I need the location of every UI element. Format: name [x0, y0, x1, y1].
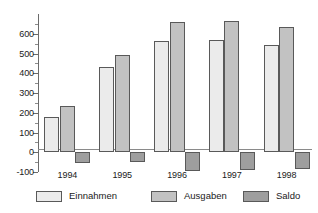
bar-saldo-1997	[240, 152, 255, 170]
bar-einnahmen-1994	[44, 117, 59, 153]
chart-legend: EinnahmenAusgabenSaldo	[0, 188, 318, 206]
bar-ausgaben-1998	[279, 27, 294, 152]
legend-swatch-einnahmen	[36, 191, 62, 202]
bar-saldo-1994	[75, 152, 90, 162]
x-tick-label: 1995	[91, 170, 153, 180]
y-tick-label: 500	[19, 50, 34, 59]
y-tick-label: 400	[19, 69, 34, 78]
y-tick-label: 0	[29, 148, 34, 157]
x-tick-label: 1998	[256, 170, 318, 180]
bar-saldo-1998	[295, 152, 310, 168]
legend-label-einnahmen: Einnahmen	[69, 191, 117, 201]
bar-group	[209, 14, 255, 172]
bar-einnahmen-1995	[99, 67, 114, 152]
x-tick-label: 1996	[146, 170, 208, 180]
legend-label-ausgaben: Ausgaben	[184, 191, 227, 201]
bar-group	[99, 14, 145, 172]
bar-einnahmen-1997	[209, 40, 224, 152]
y-tick-label: -100	[16, 168, 34, 177]
legend-swatch-ausgaben	[151, 191, 177, 202]
legend-item-einnahmen: Einnahmen	[36, 188, 117, 204]
bar-ausgaben-1994	[60, 106, 75, 152]
y-tick-label: 300	[19, 89, 34, 98]
x-tick-label: 1994	[36, 170, 98, 180]
legend-swatch-saldo	[243, 191, 269, 202]
bar-group	[264, 14, 310, 172]
bar-einnahmen-1996	[154, 41, 169, 152]
bars-layer	[38, 14, 312, 172]
bar-ausgaben-1997	[224, 21, 239, 152]
y-tick-label: 200	[19, 109, 34, 118]
bar-chart: -1000100200300400500600 1994199519961997…	[0, 0, 318, 213]
bar-saldo-1995	[130, 152, 145, 161]
bar-saldo-1996	[185, 152, 200, 170]
legend-item-saldo: Saldo	[243, 188, 300, 204]
bar-group	[154, 14, 200, 172]
bar-group	[44, 14, 90, 172]
bar-einnahmen-1998	[264, 45, 279, 152]
legend-label-saldo: Saldo	[276, 191, 300, 201]
x-tick-label: 1997	[201, 170, 263, 180]
bar-ausgaben-1995	[115, 55, 130, 152]
bar-ausgaben-1996	[170, 22, 185, 152]
y-tick-label: 600	[19, 30, 34, 39]
y-tick-label: 100	[19, 129, 34, 138]
legend-item-ausgaben: Ausgaben	[151, 188, 227, 204]
